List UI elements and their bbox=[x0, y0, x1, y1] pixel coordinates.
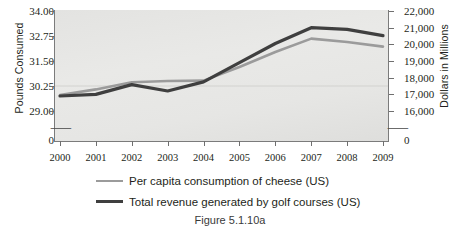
tick-mark-x-2005 bbox=[239, 141, 240, 146]
tick-mark-right-5 bbox=[389, 94, 394, 95]
figure-caption: Figure 5.1.10a bbox=[0, 214, 460, 230]
tick-mark-x-2002 bbox=[132, 141, 133, 146]
x-axis-tick-2009: 2009 bbox=[373, 152, 394, 163]
tick-mark-left-1 bbox=[49, 36, 54, 37]
tick-mark-x-2001 bbox=[96, 141, 97, 146]
tick-mark-left-4 bbox=[49, 111, 54, 112]
y-axis-left-tick-labels: 34.0032.7531.5030.2529.000 bbox=[14, 0, 54, 150]
y-axis-right-tick-0: 22,000 bbox=[404, 5, 434, 17]
series-line-cheese bbox=[60, 39, 383, 95]
y-axis-right-tick-7: 0 bbox=[404, 134, 410, 146]
y-axis-right-tick-3: 19,000 bbox=[404, 55, 434, 67]
legend-item-1[interactable]: Total revenue generated by golf courses … bbox=[0, 191, 460, 212]
y-axis-right-tick-5: 17,000 bbox=[404, 88, 434, 100]
y-axis-right-tick-1: 21,000 bbox=[404, 22, 434, 34]
tick-mark-left-0 bbox=[49, 11, 54, 12]
tick-mark-x-2008 bbox=[347, 141, 348, 146]
y-axis-right-tick-2: 20,000 bbox=[404, 38, 434, 50]
plot-area bbox=[55, 10, 388, 141]
x-axis-tick-2000: 2000 bbox=[50, 152, 71, 163]
x-axis-spine bbox=[54, 141, 389, 142]
legend-item-0[interactable]: Per capita consumption of cheese (US) bbox=[0, 170, 460, 191]
tick-mark-right-1 bbox=[389, 28, 394, 29]
tick-mark-right-4 bbox=[389, 78, 394, 79]
tick-mark-x-2009 bbox=[383, 141, 384, 146]
x-axis-tick-2001: 2001 bbox=[85, 152, 106, 163]
tick-mark-x-2003 bbox=[168, 141, 169, 146]
x-axis-tick-2005: 2005 bbox=[229, 152, 250, 163]
x-axis-tick-2007: 2007 bbox=[301, 152, 322, 163]
y-axis-right-tick-labels: 22,00021,00020,00019,00018,00017,00016,0… bbox=[404, 0, 448, 150]
legend-swatch-icon bbox=[96, 180, 123, 182]
legend-label: Total revenue generated by golf courses … bbox=[129, 196, 360, 208]
tick-mark-right-6 bbox=[389, 111, 394, 112]
tick-mark-right-0 bbox=[389, 11, 394, 12]
tick-mark-left-2 bbox=[49, 61, 54, 62]
x-axis-tick-labels: 2000200120022003200420052006200720082009 bbox=[0, 150, 460, 168]
tick-mark-right-2 bbox=[389, 44, 394, 45]
legend-label: Per capita consumption of cheese (US) bbox=[129, 175, 329, 187]
x-axis-tick-2002: 2002 bbox=[121, 152, 142, 163]
x-axis-tick-2006: 2006 bbox=[265, 152, 286, 163]
figure-chart-cheese-vs-golf: Pounds Consumed Dollars in Millions 34.0… bbox=[0, 0, 460, 230]
x-axis-tick-2003: 2003 bbox=[157, 152, 178, 163]
y-axis-right-break-icon: ⸺ bbox=[387, 121, 409, 134]
legend-swatch-icon bbox=[96, 200, 123, 203]
tick-mark-x-2000 bbox=[60, 141, 61, 146]
y-axis-right-tick-6: 16,000 bbox=[404, 105, 434, 117]
tick-mark-left-3 bbox=[49, 86, 54, 87]
x-axis-tick-2008: 2008 bbox=[337, 152, 358, 163]
tick-mark-x-2006 bbox=[275, 141, 276, 146]
tick-mark-x-2007 bbox=[311, 141, 312, 146]
tick-mark-right-3 bbox=[389, 61, 394, 62]
y-axis-left-break-icon: ⸺ bbox=[50, 121, 72, 134]
legend: Per capita consumption of cheese (US)Tot… bbox=[0, 170, 460, 212]
y-axis-right-tick-4: 18,000 bbox=[404, 72, 434, 84]
tick-mark-x-2004 bbox=[204, 141, 205, 146]
x-axis-tick-2004: 2004 bbox=[193, 152, 214, 163]
series-lines bbox=[55, 10, 388, 141]
